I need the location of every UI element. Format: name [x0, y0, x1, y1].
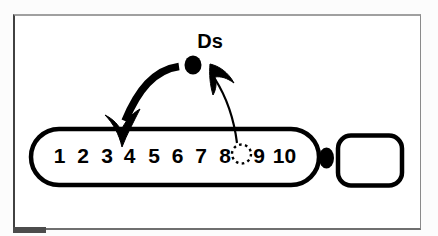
insertion-arrow-shaft: [125, 67, 179, 122]
segment-label-8: 8: [219, 144, 231, 167]
segment-label-2: 2: [77, 144, 89, 167]
segment-label-9: 9: [253, 144, 265, 167]
ds-element-circle-icon: [185, 56, 202, 75]
segment-label-10: 10: [273, 144, 296, 167]
segment-label-1: 1: [54, 144, 66, 167]
ds-transposition-diagram: 1 2 3 4 5 6 7 8 9 10 Ds: [0, 0, 438, 236]
centromere-circle-icon: [319, 148, 334, 169]
figure-page: 1 2 3 4 5 6 7 8 9 10 Ds: [0, 0, 438, 236]
segment-label-6: 6: [172, 144, 184, 167]
segment-label-4: 4: [124, 144, 136, 167]
segment-label-7: 7: [195, 144, 207, 167]
chromosome-short-arm: [338, 136, 402, 186]
segment-label-3: 3: [101, 144, 113, 167]
segment-label-5: 5: [148, 144, 160, 167]
ds-element-label: Ds: [197, 30, 223, 52]
